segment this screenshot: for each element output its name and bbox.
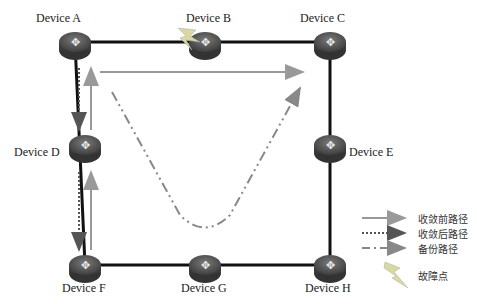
legend-fault-icon — [384, 262, 408, 288]
svg-text:✥: ✥ — [326, 139, 335, 151]
legend-backup: 备份路径 — [418, 241, 458, 256]
svg-text:✥: ✥ — [326, 259, 335, 271]
svg-text:✥: ✥ — [71, 36, 80, 48]
device-b-label: Device B — [186, 11, 231, 26]
device-a-label: Device A — [36, 11, 81, 26]
device-c-label: Device C — [300, 11, 345, 26]
routers: ✥ ✥ ✥ ✥ ✥ ✥ ✥ ✥ — [59, 32, 346, 283]
device-h-label: Device H — [305, 281, 351, 296]
svg-text:✥: ✥ — [81, 259, 90, 271]
pre-convergence-path — [91, 68, 303, 250]
legend-post-convergence: 收敛后路径 — [418, 226, 468, 241]
svg-text:✥: ✥ — [326, 36, 335, 48]
device-g-label: Device G — [181, 281, 227, 296]
legend-pre-convergence: 收敛前路径 — [418, 211, 468, 226]
device-f-label: Device F — [62, 281, 106, 296]
device-d-label: Device D — [14, 145, 60, 160]
svg-text:✥: ✥ — [201, 36, 210, 48]
backup-path — [112, 88, 300, 228]
links — [75, 42, 330, 265]
svg-text:✥: ✥ — [81, 139, 90, 151]
svg-text:✥: ✥ — [201, 259, 210, 271]
device-e-label: Device E — [349, 145, 393, 160]
legend-fault-point: 故障点 — [418, 268, 448, 283]
topology-diagram: ✥ ✥ ✥ ✥ ✥ ✥ ✥ ✥ — [0, 0, 477, 304]
